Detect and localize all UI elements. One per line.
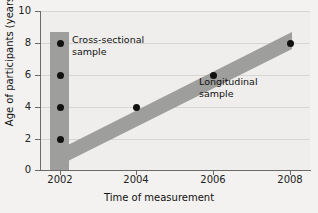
y-tick-label-6: 6 [25, 70, 31, 80]
y-tick-10 [35, 11, 40, 12]
y-tick-0 [35, 170, 40, 171]
chart-figure: 10 8 6 4 2 0 2002 2004 2006 2008 Age of … [0, 0, 318, 213]
cross-sectional-band [50, 32, 69, 170]
gridline-6 [40, 75, 310, 76]
gridline-4 [40, 107, 310, 108]
x-tick-label-2008: 2008 [277, 175, 302, 185]
data-point-long-2008 [287, 40, 294, 47]
x-tick-label-2002: 2002 [47, 175, 72, 185]
y-tick-label-4: 4 [25, 102, 31, 112]
y-tick-4 [35, 107, 40, 108]
x-axis-line [40, 170, 311, 171]
annotation-cross-sectional: Cross-sectional sample [72, 34, 144, 57]
y-axis-title: Age of participants (years) [4, 0, 15, 137]
data-point-cross-2 [57, 136, 64, 143]
y-tick-8 [35, 43, 40, 44]
data-point-long-2004 [133, 104, 140, 111]
data-point-cross-8 [57, 40, 64, 47]
y-tick-label-10: 10 [18, 6, 31, 16]
y-axis-line [40, 11, 41, 171]
gridline-2 [40, 139, 310, 140]
x-axis-title: Time of measurement [0, 192, 318, 203]
y-tick-label-0: 0 [25, 165, 31, 175]
y-tick-6 [35, 75, 40, 76]
gridline-10 [40, 11, 310, 12]
y-tick-label-2: 2 [25, 134, 31, 144]
data-point-cross-6 [57, 72, 64, 79]
annotation-longitudinal: Longitudinal sample [199, 76, 258, 99]
x-tick-label-2004: 2004 [123, 175, 148, 185]
data-point-cross-4 [57, 104, 64, 111]
y-tick-2 [35, 139, 40, 140]
x-tick-label-2006: 2006 [200, 175, 225, 185]
y-tick-label-8: 8 [25, 38, 31, 48]
